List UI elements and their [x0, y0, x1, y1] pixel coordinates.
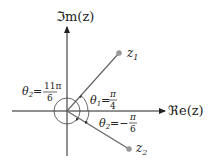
theta1-label: θ1= π 4: [90, 89, 117, 111]
svg-text:4: 4: [110, 101, 116, 111]
svg-text:11π: 11π: [44, 81, 61, 91]
theta2-label: θ2=− π 6: [99, 112, 137, 134]
imaginary-axis-label: ℑm(z): [56, 9, 94, 24]
point-z2: [127, 147, 132, 152]
real-axis-label: ℜe(z): [168, 103, 204, 118]
theta1-arc: [81, 96, 88, 112]
z2-label: z2: [135, 141, 147, 157]
complex-plane-diagram: ℑm(z) ℜe(z) z1 z2 θ1= π 4 θ2=− π 6 θ2= 1…: [0, 0, 211, 168]
svg-text:π: π: [129, 112, 137, 122]
svg-text:6: 6: [47, 93, 53, 103]
svg-text:π: π: [109, 89, 117, 99]
z1-label: z1: [126, 46, 138, 62]
theta2-alt-label: θ2= 11π 6: [22, 81, 61, 103]
svg-text:6: 6: [130, 124, 136, 134]
point-z1: [117, 51, 122, 56]
svg-text:θ2=−: θ2=−: [99, 117, 129, 131]
svg-text:θ1=: θ1=: [90, 94, 110, 108]
theta2-arc: [86, 111, 89, 122]
svg-text:θ2=: θ2=: [22, 85, 42, 99]
